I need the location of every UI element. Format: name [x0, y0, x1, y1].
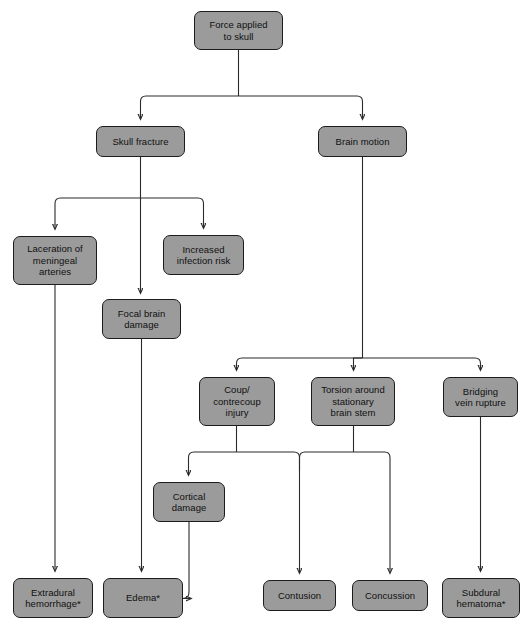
node-label: Laceration of meningeal arteries — [27, 243, 83, 278]
node-cortical-damage[interactable]: Cortical damage — [153, 482, 225, 522]
node-label: Force applied to skull — [209, 19, 267, 42]
node-contusion[interactable]: Contusion — [263, 580, 336, 611]
flowchart-edges — [0, 0, 531, 624]
node-label: Skull fracture — [112, 136, 168, 148]
node-label: Torsion around stationary brain stem — [321, 384, 385, 419]
node-skull-fracture[interactable]: Skull fracture — [96, 126, 185, 157]
node-label: Cortical damage — [172, 491, 207, 514]
node-force-applied-to-skull[interactable]: Force applied to skull — [194, 11, 283, 50]
node-label: Edema* — [126, 592, 160, 604]
node-subdural-hematoma[interactable]: Subdural hematoma* — [442, 578, 520, 618]
node-brain-motion[interactable]: Brain motion — [318, 126, 407, 157]
node-label: Concussion — [365, 590, 415, 602]
node-label: Subdural hematoma* — [456, 587, 505, 610]
edge-torsion-to-contusion — [300, 452, 354, 470]
node-coup-contrecoup-injury[interactable]: Coup/ contrecoup injury — [199, 377, 275, 426]
node-label: Focal brain damage — [118, 308, 166, 331]
edge-cortical-to-edema — [183, 522, 192, 599]
node-laceration-of-meningeal-arteries[interactable]: Laceration of meningeal arteries — [13, 236, 97, 285]
edge-coup-to-cortical — [189, 452, 237, 475]
node-label: Contusion — [278, 590, 321, 602]
node-bridging-vein-rupture[interactable]: Bridging vein rupture — [443, 377, 518, 417]
edge-coup-to-contusion — [237, 452, 300, 573]
node-label: Brain motion — [336, 136, 390, 148]
node-extradural-hemorrhage[interactable]: Extradural hemorrhage* — [13, 578, 93, 618]
node-label: Bridging vein rupture — [455, 386, 506, 409]
node-label: Coup/ contrecoup injury — [213, 384, 261, 419]
edge-force-to-brain-motion — [239, 96, 363, 119]
node-increased-infection-risk[interactable]: Increased infection risk — [163, 235, 244, 275]
node-focal-brain-damage[interactable]: Focal brain damage — [102, 299, 181, 339]
node-torsion-around-stationary-brain-stem[interactable]: Torsion around stationary brain stem — [311, 377, 395, 426]
flowchart-canvas: Force applied to skull Skull fracture Br… — [0, 0, 531, 624]
edge-skull-to-laceration — [55, 198, 141, 229]
node-concussion[interactable]: Concussion — [352, 580, 428, 611]
edge-torsion-to-concussion — [354, 452, 391, 573]
node-label: Increased infection risk — [177, 244, 231, 267]
edge-brainmotion-to-bridging — [363, 358, 481, 370]
edge-brainmotion-to-coup — [237, 358, 363, 370]
edge-brainmotion-to-torsion — [354, 358, 363, 370]
edge-skull-to-infection — [141, 198, 204, 228]
edge-force-to-skull — [141, 96, 239, 119]
node-edema[interactable]: Edema* — [103, 578, 183, 618]
node-label: Extradural hemorrhage* — [25, 587, 80, 610]
